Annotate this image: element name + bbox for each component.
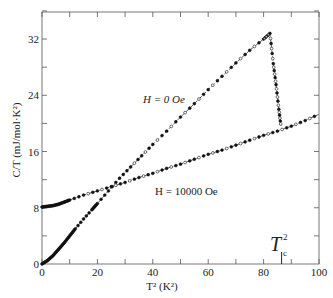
y-tick-label: 24 xyxy=(28,89,40,101)
x-tick-label: 100 xyxy=(311,266,328,278)
tc-label: T c 2 xyxy=(270,232,288,258)
tc-label-text: T xyxy=(270,233,283,255)
tc-label-sup: 2 xyxy=(283,232,288,242)
tc-label-sub: c xyxy=(283,248,287,258)
y-tick-label: 0 xyxy=(34,258,40,270)
x-tick-label: 80 xyxy=(258,266,270,278)
data-series xyxy=(41,32,319,265)
x-tick-label: 20 xyxy=(92,266,104,278)
y-tick-label: 32 xyxy=(28,33,39,45)
x-tick-label: 60 xyxy=(203,266,215,278)
y-tick-label: 8 xyxy=(34,202,40,214)
plot-border xyxy=(42,12,319,264)
series-line xyxy=(42,33,281,264)
x-axis-label: T² (K²) xyxy=(146,280,178,293)
annotation-h10000: H = 10000 Oe xyxy=(155,185,218,197)
annotation-h0: H = 0 Oe xyxy=(142,93,185,105)
x-tick-label: 40 xyxy=(147,266,159,278)
y-axis-label: C/T (mJ/mol·K²) xyxy=(10,102,23,177)
y-tick-label: 16 xyxy=(28,146,40,158)
chart: 02040608010008162432 H = 0 Oe H = 10000 … xyxy=(0,0,333,298)
x-tick-label: 0 xyxy=(39,266,45,278)
